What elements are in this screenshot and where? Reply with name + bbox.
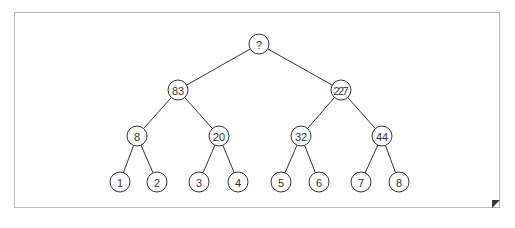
tree-edge bbox=[385, 145, 395, 172]
tree-edge bbox=[144, 97, 172, 128]
tree-node: 3 bbox=[189, 172, 209, 192]
node-label: 3 bbox=[196, 177, 202, 189]
tree-edge bbox=[185, 97, 213, 128]
tree-node: 7 bbox=[351, 172, 371, 192]
tree-edge bbox=[365, 145, 378, 173]
tree-node: 83 bbox=[168, 80, 188, 100]
node-label: 44 bbox=[376, 131, 388, 143]
node-label: 6 bbox=[316, 177, 322, 189]
tree-edge bbox=[123, 145, 133, 172]
tree-node: 227 bbox=[331, 80, 351, 100]
tree-node: 6 bbox=[309, 172, 329, 192]
tree-edge bbox=[187, 49, 251, 85]
tree-edge bbox=[348, 97, 376, 128]
tree-edge bbox=[141, 145, 153, 173]
tree-node: 2 bbox=[147, 172, 167, 192]
tree-node: 5 bbox=[271, 172, 291, 192]
tree-node: 8 bbox=[127, 126, 147, 146]
tree-node: 32 bbox=[291, 126, 311, 146]
node-label: 7 bbox=[358, 177, 364, 189]
node-label: 4 bbox=[235, 177, 241, 189]
tree-edge bbox=[308, 98, 335, 129]
node-label: 5 bbox=[278, 177, 284, 189]
tree-node: 8 bbox=[389, 172, 409, 192]
node-label: 8 bbox=[134, 131, 140, 143]
node-label: 20 bbox=[213, 131, 225, 143]
tree-edge bbox=[223, 145, 234, 173]
tree-node: 44 bbox=[372, 126, 392, 146]
binary-tree-diagram: ?83227820324412345678 bbox=[0, 0, 515, 228]
tree-node: 20 bbox=[209, 126, 229, 146]
tree-edge bbox=[203, 145, 215, 173]
tree-edge bbox=[285, 145, 297, 173]
node-label: 227 bbox=[334, 85, 349, 97]
tree-edge bbox=[268, 49, 333, 85]
tree-root-node: ? bbox=[249, 34, 269, 54]
node-label: 83 bbox=[172, 85, 184, 97]
node-label: 1 bbox=[117, 177, 123, 189]
tree-edge bbox=[305, 145, 316, 172]
node-label: 8 bbox=[396, 177, 402, 189]
node-label: 32 bbox=[295, 131, 307, 143]
tree-node: 1 bbox=[110, 172, 130, 192]
node-label: 2 bbox=[154, 177, 160, 189]
tree-nodes: ?83227820324412345678 bbox=[110, 34, 409, 192]
node-label: ? bbox=[256, 39, 262, 51]
tree-node: 4 bbox=[228, 172, 248, 192]
tree-edges bbox=[123, 49, 395, 173]
